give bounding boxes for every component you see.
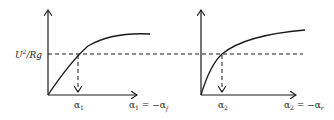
x-axis-label: α1 = −αf: [129, 100, 170, 113]
marker-label: α1: [74, 100, 84, 111]
y-axis-label: U2/Rg: [15, 48, 42, 60]
slip-angle-diagram: U2/Rg α1 α1 = −αf α2 α2 = −αr: [0, 0, 334, 120]
panel-rear: α2 α2 = −αr: [201, 10, 325, 111]
panel-front: α1 α1 = −αf: [48, 10, 170, 113]
x-axis-label: α2 = −αr: [284, 100, 325, 111]
cornering-curve: [48, 34, 150, 95]
cornering-curve: [201, 30, 305, 95]
marker-label: α2: [218, 100, 228, 111]
